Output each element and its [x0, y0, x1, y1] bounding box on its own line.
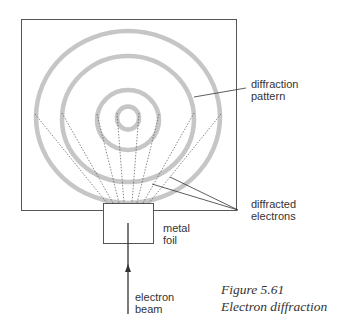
- label-diffraction-pattern-1: diffraction: [251, 78, 299, 90]
- ring-2: [97, 90, 159, 150]
- ring-3: [62, 56, 194, 182]
- diffraction-rings: [36, 31, 220, 203]
- pattern-leader: [194, 88, 246, 97]
- label-diffracted-electrons-2: electrons: [251, 210, 296, 222]
- electron-diffraction-figure: diffraction pattern diffracted electrons…: [0, 0, 353, 336]
- arrowhead-icon: [125, 264, 131, 272]
- label-metal-foil-2: foil: [163, 234, 177, 246]
- label-diffracted-electrons-1: diffracted: [251, 198, 296, 210]
- leader-lines: [152, 88, 246, 210]
- label-diffraction-pattern-2: pattern: [251, 90, 285, 102]
- label-electron-beam-1: electron: [135, 291, 174, 303]
- figure-number: Figure 5.61: [220, 282, 284, 297]
- ring-1-inner: [117, 107, 139, 130]
- electrons-leader-1: [170, 177, 238, 210]
- label-metal-foil-1: metal: [163, 222, 190, 234]
- label-electron-beam-2: beam: [135, 303, 163, 315]
- figure-title: Electron diffraction: [220, 299, 328, 314]
